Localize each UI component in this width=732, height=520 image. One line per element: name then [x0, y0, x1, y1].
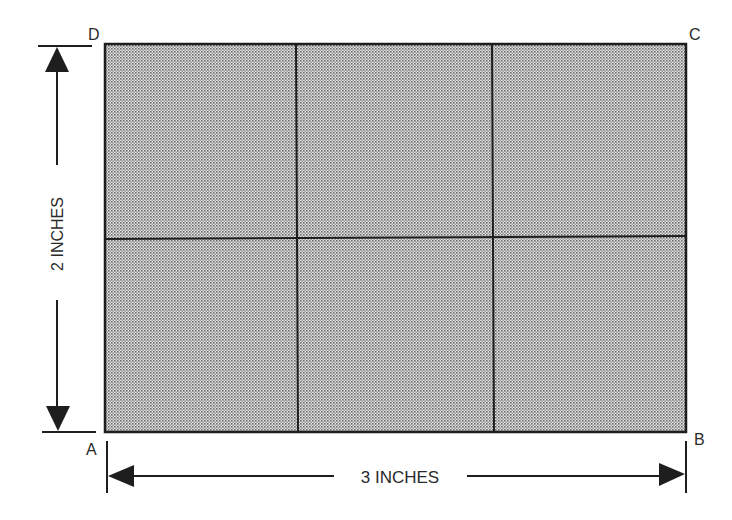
arrow-down-icon: [46, 406, 70, 431]
height-dimension: [38, 46, 96, 432]
width-label: 3 INCHES: [361, 468, 439, 487]
arrow-left-icon: [108, 465, 134, 487]
corner-label-d: D: [88, 26, 100, 43]
rectangle-dimension-diagram: 2 INCHES 3 INCHES D C A B: [0, 0, 732, 520]
arrow-up-icon: [45, 47, 69, 72]
corner-label-c: C: [689, 26, 701, 43]
corner-label-b: B: [694, 431, 705, 448]
corner-label-a: A: [86, 441, 97, 458]
height-label: 2 INCHES: [49, 197, 66, 271]
arrow-right-icon: [659, 463, 685, 486]
